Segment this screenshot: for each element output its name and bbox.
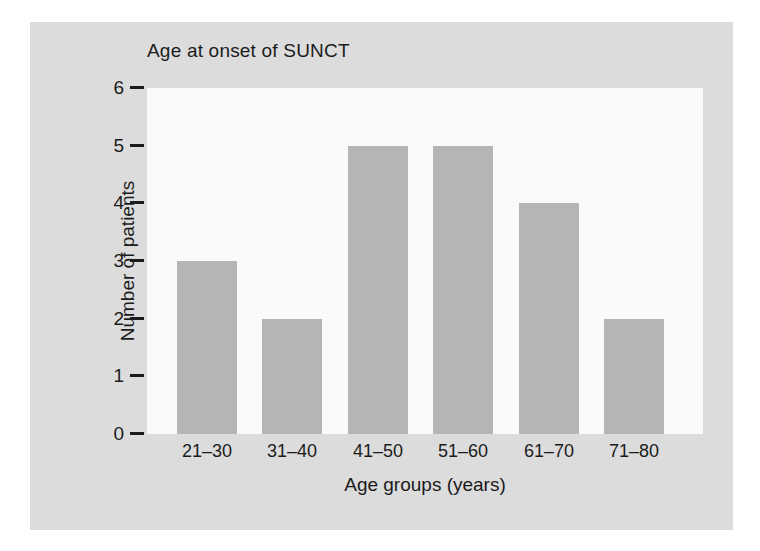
- x-tick-label-61-70: 61–70: [509, 440, 589, 462]
- y-tick-label: 6: [104, 76, 124, 100]
- y-tick-mark: [130, 317, 144, 320]
- x-tick-label-31-40: 31–40: [252, 440, 332, 462]
- bar-41-50: [348, 146, 408, 434]
- x-tick-label-41-50: 41–50: [338, 440, 418, 462]
- chart-title: Age at onset of SUNCT: [147, 40, 350, 62]
- y-tick-mark: [130, 374, 144, 377]
- y-tick-mark: [130, 86, 144, 89]
- figure-panel: Age at onset of SUNCT Number of patients…: [30, 22, 733, 530]
- x-axis-title: Age groups (years): [147, 474, 703, 496]
- y-tick-label: 2: [104, 307, 124, 331]
- x-tick-label-21-30: 21–30: [167, 440, 247, 462]
- y-tick-mark: [130, 432, 144, 435]
- y-tick-label: 5: [104, 134, 124, 158]
- bar-61-70: [519, 203, 579, 434]
- x-tick-label-51-60: 51–60: [423, 440, 503, 462]
- y-tick-label: 0: [104, 422, 124, 446]
- bar-21-30: [177, 261, 237, 434]
- y-tick-label: 3: [104, 249, 124, 273]
- bar-51-60: [433, 146, 493, 434]
- bar-31-40: [262, 319, 322, 434]
- y-tick-mark: [130, 201, 144, 204]
- y-tick-label: 1: [104, 364, 124, 388]
- bar-71-80: [604, 319, 664, 434]
- y-tick-mark: [130, 144, 144, 147]
- plot-area: Number of patients 0 1 2 3 4 5 6: [147, 88, 703, 434]
- y-tick-label: 4: [104, 191, 124, 215]
- x-tick-label-71-80: 71–80: [594, 440, 674, 462]
- y-tick-mark: [130, 259, 144, 262]
